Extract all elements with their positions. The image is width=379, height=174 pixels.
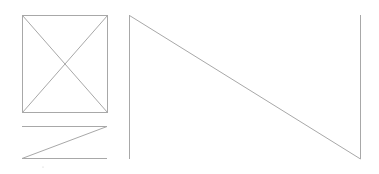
text-placeholder-diagonal xyxy=(22,127,107,159)
stray-dot xyxy=(42,166,43,167)
large-n-shape xyxy=(130,15,361,159)
text-placeholder xyxy=(22,127,107,159)
large-shape-diagonal xyxy=(130,16,361,160)
image-placeholder xyxy=(23,16,108,113)
wireframe-canvas xyxy=(0,0,379,174)
